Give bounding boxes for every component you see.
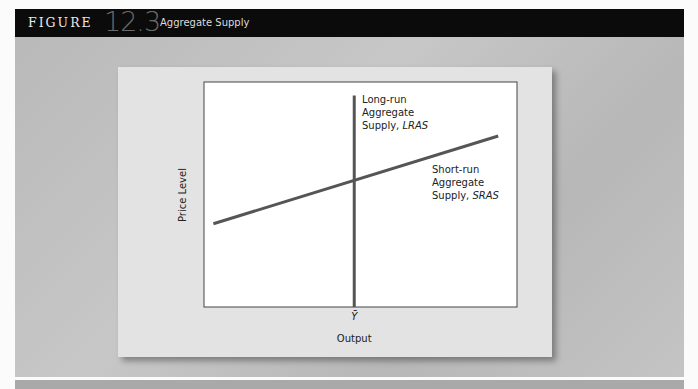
x-axis-label: Output (337, 333, 372, 344)
y-axis-label: Price Level (177, 168, 188, 222)
aggregate-supply-chart: Price Level Output Ȳ Long-runAggregateSu… (0, 0, 698, 389)
x-tick-label: Ȳ (351, 310, 358, 322)
